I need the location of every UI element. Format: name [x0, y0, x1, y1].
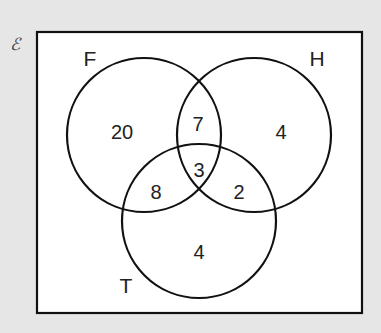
- set-label-h: H: [309, 47, 324, 70]
- region-value-F-H-only: 7: [192, 113, 203, 135]
- universal-set-symbol: ℰ: [10, 34, 22, 54]
- set-label-t: T: [120, 274, 133, 297]
- region-value-H-T-only: 2: [233, 181, 244, 203]
- venn-diagram: ℰ FHT 20743824: [0, 0, 381, 333]
- region-value-F-only: 20: [111, 121, 133, 143]
- region-value-T-only: 4: [193, 241, 204, 263]
- region-value-F-H-T: 3: [193, 159, 204, 181]
- region-value-F-T-only: 8: [150, 181, 161, 203]
- set-label-f: F: [84, 47, 97, 70]
- region-value-H-only: 4: [275, 121, 286, 143]
